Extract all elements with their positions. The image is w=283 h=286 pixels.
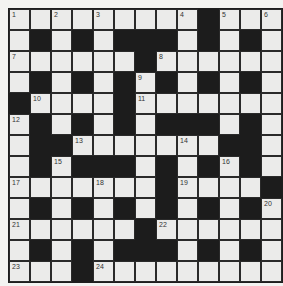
crossword-cell[interactable]: [135, 261, 156, 282]
crossword-cell[interactable]: 12: [9, 114, 30, 135]
crossword-cell[interactable]: [177, 156, 198, 177]
crossword-cell[interactable]: [93, 51, 114, 72]
crossword-cell[interactable]: [9, 135, 30, 156]
crossword-cell[interactable]: [51, 93, 72, 114]
crossword-cell[interactable]: [219, 72, 240, 93]
crossword-cell[interactable]: [51, 114, 72, 135]
crossword-cell[interactable]: [93, 135, 114, 156]
crossword-cell[interactable]: 19: [177, 177, 198, 198]
crossword-cell[interactable]: [198, 261, 219, 282]
crossword-cell[interactable]: [72, 9, 93, 30]
crossword-cell[interactable]: [51, 198, 72, 219]
crossword-cell[interactable]: 10: [30, 93, 51, 114]
crossword-cell[interactable]: [240, 177, 261, 198]
crossword-cell[interactable]: 9: [135, 72, 156, 93]
crossword-cell[interactable]: [135, 114, 156, 135]
crossword-cell[interactable]: [93, 93, 114, 114]
crossword-cell[interactable]: [72, 51, 93, 72]
crossword-cell[interactable]: [261, 114, 282, 135]
crossword-cell[interactable]: [219, 261, 240, 282]
crossword-cell[interactable]: [9, 156, 30, 177]
crossword-cell[interactable]: [51, 51, 72, 72]
crossword-cell[interactable]: 11: [135, 93, 156, 114]
crossword-cell[interactable]: [219, 240, 240, 261]
crossword-cell[interactable]: [261, 30, 282, 51]
crossword-cell[interactable]: [156, 93, 177, 114]
crossword-cell[interactable]: [51, 261, 72, 282]
crossword-cell[interactable]: [177, 198, 198, 219]
crossword-cell[interactable]: [9, 240, 30, 261]
crossword-cell[interactable]: [219, 30, 240, 51]
crossword-cell[interactable]: 8: [156, 51, 177, 72]
crossword-cell[interactable]: 3: [93, 9, 114, 30]
crossword-cell[interactable]: [261, 219, 282, 240]
crossword-cell[interactable]: [72, 219, 93, 240]
crossword-cell[interactable]: [135, 198, 156, 219]
crossword-cell[interactable]: 1: [9, 9, 30, 30]
crossword-cell[interactable]: [30, 261, 51, 282]
crossword-cell[interactable]: [240, 93, 261, 114]
crossword-cell[interactable]: [240, 219, 261, 240]
crossword-cell[interactable]: [135, 177, 156, 198]
crossword-cell[interactable]: [261, 93, 282, 114]
crossword-cell[interactable]: [114, 177, 135, 198]
crossword-cell[interactable]: [156, 261, 177, 282]
crossword-cell[interactable]: [219, 198, 240, 219]
crossword-cell[interactable]: [30, 219, 51, 240]
crossword-cell[interactable]: [114, 135, 135, 156]
crossword-cell[interactable]: [51, 240, 72, 261]
crossword-cell[interactable]: [114, 51, 135, 72]
crossword-cell[interactable]: [219, 219, 240, 240]
crossword-cell[interactable]: [177, 51, 198, 72]
crossword-cell[interactable]: 22: [156, 219, 177, 240]
crossword-cell[interactable]: 21: [9, 219, 30, 240]
crossword-cell[interactable]: [177, 72, 198, 93]
crossword-cell[interactable]: [177, 93, 198, 114]
crossword-cell[interactable]: [198, 135, 219, 156]
crossword-cell[interactable]: [51, 30, 72, 51]
crossword-cell[interactable]: 4: [177, 9, 198, 30]
crossword-cell[interactable]: [198, 219, 219, 240]
crossword-cell[interactable]: [240, 9, 261, 30]
crossword-cell[interactable]: [93, 240, 114, 261]
crossword-cell[interactable]: 23: [9, 261, 30, 282]
crossword-cell[interactable]: [93, 72, 114, 93]
crossword-cell[interactable]: [9, 30, 30, 51]
crossword-cell[interactable]: [261, 261, 282, 282]
crossword-cell[interactable]: [219, 177, 240, 198]
crossword-cell[interactable]: [93, 114, 114, 135]
crossword-cell[interactable]: [9, 72, 30, 93]
crossword-cell[interactable]: [114, 219, 135, 240]
crossword-cell[interactable]: [219, 51, 240, 72]
crossword-cell[interactable]: [240, 261, 261, 282]
crossword-cell[interactable]: [72, 93, 93, 114]
crossword-cell[interactable]: [219, 114, 240, 135]
crossword-cell[interactable]: [51, 177, 72, 198]
crossword-cell[interactable]: 16: [219, 156, 240, 177]
crossword-cell[interactable]: [261, 72, 282, 93]
crossword-cell[interactable]: [30, 51, 51, 72]
crossword-cell[interactable]: [261, 51, 282, 72]
crossword-cell[interactable]: [261, 156, 282, 177]
crossword-cell[interactable]: [51, 72, 72, 93]
crossword-cell[interactable]: [156, 135, 177, 156]
crossword-cell[interactable]: 6: [261, 9, 282, 30]
crossword-cell[interactable]: [114, 261, 135, 282]
crossword-cell[interactable]: [198, 177, 219, 198]
crossword-cell[interactable]: [177, 30, 198, 51]
crossword-cell[interactable]: [198, 93, 219, 114]
crossword-cell[interactable]: 24: [93, 261, 114, 282]
crossword-cell[interactable]: [240, 51, 261, 72]
crossword-cell[interactable]: 18: [93, 177, 114, 198]
crossword-cell[interactable]: [261, 135, 282, 156]
crossword-cell[interactable]: [93, 219, 114, 240]
crossword-cell[interactable]: [93, 30, 114, 51]
crossword-cell[interactable]: [177, 219, 198, 240]
crossword-cell[interactable]: [261, 240, 282, 261]
crossword-cell[interactable]: [135, 156, 156, 177]
crossword-cell[interactable]: [30, 177, 51, 198]
crossword-cell[interactable]: [51, 219, 72, 240]
crossword-cell[interactable]: [135, 135, 156, 156]
crossword-cell[interactable]: 20: [261, 198, 282, 219]
crossword-cell[interactable]: [177, 240, 198, 261]
